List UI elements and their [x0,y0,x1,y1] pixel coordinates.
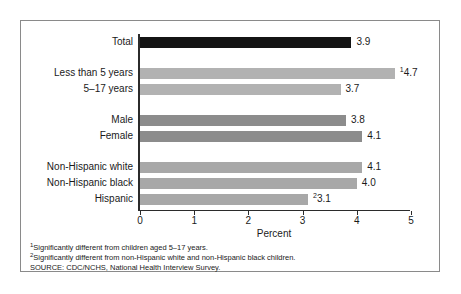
bar [140,37,351,48]
bar-value-label: 23.1 [313,193,331,204]
x-axis-tick-label: 2 [233,215,263,226]
bar-value-label: 3.9 [356,36,370,47]
chart-plot-area: 012345 Total3.9Less than 5 years14.75–17… [21,21,441,273]
value-label-superscript: 1 [400,66,404,73]
category-label: 5–17 years [21,83,133,94]
x-axis-tick-label: 5 [396,215,426,226]
figure-frame: 012345 Total3.9Less than 5 years14.75–17… [20,20,440,272]
x-axis-tick-label: 3 [288,215,318,226]
x-axis-title: Percent [138,228,410,239]
footnote-marker: 1 [30,242,33,248]
bar [140,84,341,95]
bar [140,178,357,189]
source-note: SOURCE: CDC/NCHS, National Health Interv… [30,263,430,273]
category-label: Hispanic [21,193,133,204]
bar-value-label: 3.8 [351,114,365,125]
bar [140,115,346,126]
footnote-marker: 2 [30,252,33,258]
category-label: Non-Hispanic white [21,161,133,172]
bar-value-label: 4.1 [367,130,381,141]
value-label-superscript: 2 [313,192,317,199]
bar-value-label: 4.0 [362,177,376,188]
bar-value-label: 14.7 [400,67,418,78]
bar [140,68,395,79]
x-axis-tick-label: 0 [125,215,155,226]
footnote: 1Significantly different from children a… [30,243,430,253]
bar-value-label: 4.1 [367,161,381,172]
footnotes-block: 1Significantly different from children a… [30,243,430,273]
bar [140,131,362,142]
category-label: Less than 5 years [21,67,133,78]
bar-value-label: 3.7 [346,83,360,94]
value-axis-line [138,210,410,211]
category-label: Non-Hispanic black [21,177,133,188]
x-axis-tick-label: 1 [179,215,209,226]
category-label: Total [21,36,133,47]
bar [140,162,362,173]
category-label: Male [21,114,133,125]
bar [140,194,308,205]
x-axis-tick-label: 4 [342,215,372,226]
category-label: Female [21,130,133,141]
footnote: 2Significantly different from non-Hispan… [30,253,430,263]
